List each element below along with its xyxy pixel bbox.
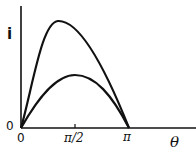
x-tick-pi: π [123, 130, 131, 144]
lower-curve [21, 75, 129, 128]
x-axis-label: θ [170, 133, 179, 151]
chart: i 0 0 π/2 π θ [0, 0, 196, 152]
y-axis-label: i [7, 25, 12, 43]
x-tick-0: 0 [17, 131, 25, 145]
origin-label: 0 [6, 119, 14, 133]
x-tick-half-pi: π/2 [64, 131, 84, 145]
plot-area [0, 0, 196, 152]
